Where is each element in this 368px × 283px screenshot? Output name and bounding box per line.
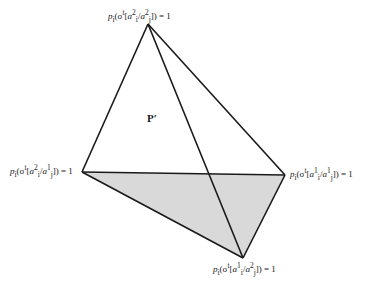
edge-top-right <box>148 24 285 175</box>
vertex-label-right: pi(σt[a1i/a1j]) = 1 <box>290 166 353 182</box>
region-label: P′ <box>147 112 157 124</box>
shaded-face <box>82 172 285 258</box>
tetrahedron-figure <box>0 0 368 283</box>
edge-top-left <box>82 24 148 172</box>
vertex-label-bottom: pi(σt[a1i/a2j]) = 1 <box>213 261 276 277</box>
vertex-label-left: pi(σt[a2i/a1j]) = 1 <box>10 163 73 179</box>
vertex-label-top: pi(σt[a2i/a2j]) = 1 <box>108 8 171 24</box>
